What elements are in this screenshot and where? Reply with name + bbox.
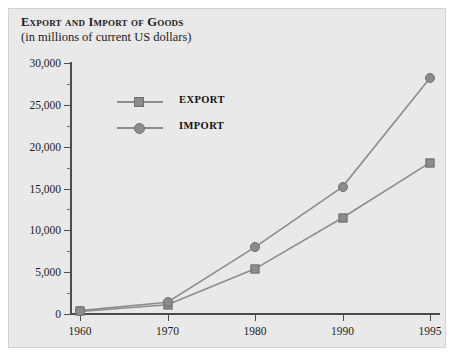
y-tick-label: 0	[55, 308, 61, 320]
x-tick	[343, 314, 344, 321]
y-tick-major	[64, 189, 71, 190]
x-tick	[430, 314, 431, 321]
y-tick-major	[64, 105, 71, 106]
x-tick-label: 1980	[244, 325, 267, 337]
y-tick-major	[64, 314, 71, 315]
data-point-marker	[250, 242, 260, 252]
data-point-marker	[338, 182, 348, 192]
legend-label-import: IMPORT	[179, 120, 224, 131]
x-tick	[168, 314, 169, 321]
legend-label-export: EXPORT	[179, 94, 225, 105]
legend-marker-circle-icon	[134, 123, 145, 134]
y-tick-label: 20,000	[29, 141, 61, 153]
x-tick	[255, 314, 256, 321]
line-export	[80, 163, 430, 312]
data-point-marker	[425, 73, 435, 83]
line-import	[80, 78, 430, 311]
y-tick-major	[64, 63, 71, 64]
data-point-marker	[426, 158, 435, 167]
y-tick-major	[64, 230, 71, 231]
data-point-marker	[75, 306, 85, 316]
y-tick-major	[64, 147, 71, 148]
chart-title: Export and Import of Goods	[21, 15, 421, 30]
title-block: Export and Import of Goods (in millions …	[21, 15, 421, 45]
y-tick-label: 10,000	[29, 224, 61, 236]
data-point-marker	[163, 297, 173, 307]
x-tick-label: 1970	[156, 325, 179, 337]
y-tick-label: 25,000	[29, 99, 61, 111]
y-tick-label: 15,000	[29, 183, 61, 195]
y-tick-major	[64, 272, 71, 273]
data-point-marker	[338, 213, 347, 222]
y-tick-label: 30,000	[29, 57, 61, 69]
chart-figure: Export and Import of Goods (in millions …	[8, 8, 446, 348]
x-tick-label: 1990	[331, 325, 354, 337]
x-tick-label: 1960	[69, 325, 92, 337]
y-tick-label: 5,000	[35, 266, 61, 278]
legend-marker-square-icon	[134, 97, 144, 107]
chart-subtitle: (in millions of current US dollars)	[21, 30, 421, 45]
x-tick-label: 1995	[419, 325, 442, 337]
data-point-marker	[251, 264, 260, 273]
